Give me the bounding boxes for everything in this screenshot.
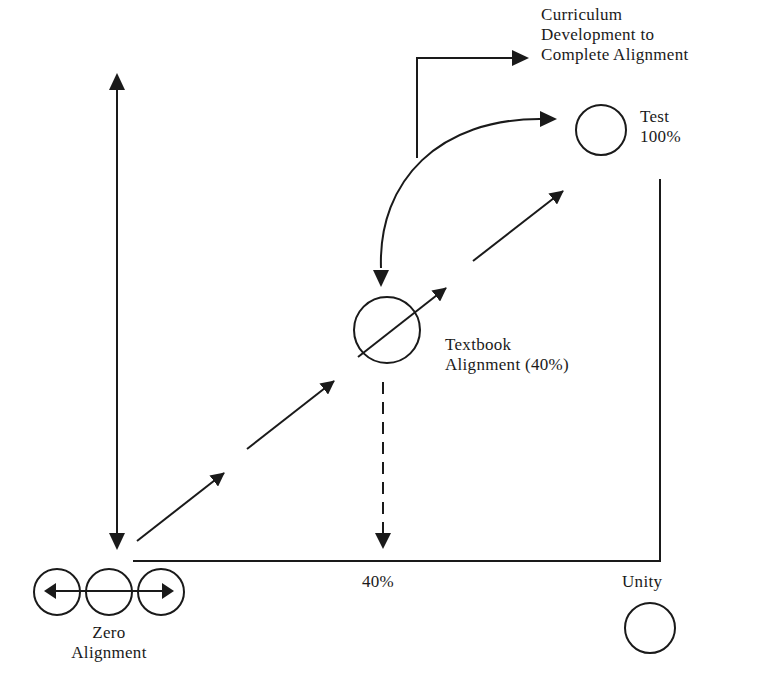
test-label-line-1: Test [640,107,681,127]
unity-circle [625,603,675,653]
curriculum-label: Curriculum Development to Complete Align… [541,5,689,65]
textbook-circle [354,297,420,363]
curved-feedback-arrow [373,111,557,287]
textbook-label: Textbook Alignment (40%) [445,335,569,375]
test-circle [576,105,626,155]
zero-alignment-circles [34,569,184,615]
test-label-line-2: 100% [640,127,681,147]
forty-percent-label: 40% [362,572,394,592]
curriculum-label-line-1: Curriculum [541,5,689,25]
curriculum-label-line-2: Development to [541,25,689,45]
curriculum-elbow-arrow [417,50,529,158]
curriculum-label-line-3: Complete Alignment [541,45,689,65]
zero-alignment-label-line-2: Alignment [56,643,162,663]
dashed-down-arrow [375,382,391,549]
zero-alignment-label: Zero Alignment [56,623,162,663]
test-label: Test 100% [640,107,681,147]
baseline-frame [133,179,660,562]
textbook-label-line-1: Textbook [445,335,569,355]
zero-alignment-label-line-1: Zero [56,623,162,643]
textbook-label-line-2: Alignment (40%) [445,355,569,375]
vertical-double-arrow [109,73,125,550]
unity-label: Unity [622,572,662,592]
